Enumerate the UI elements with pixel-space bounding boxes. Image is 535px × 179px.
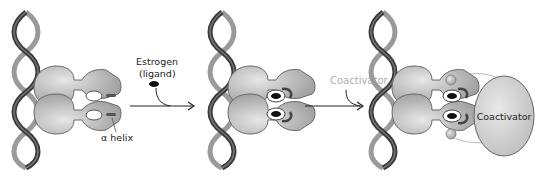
bound-estrogen-bottom [271,111,281,117]
stage-3: Coactivator [371,12,534,168]
bound-estrogen-top [271,93,281,99]
stage-1: α helix [14,12,133,168]
coactivator-contact-top [446,75,456,85]
estrogen-ligand-icon [149,81,159,87]
alpha-helix-bottom [106,113,116,116]
arrow-coactivator: Coactivator [305,75,389,110]
receptor-monomer-bottom [392,94,479,134]
empty-ligand-pocket-bottom [86,110,102,120]
bound-estrogen-bottom [447,113,457,119]
receptor-dimer [34,66,121,134]
stage-2 [210,12,315,168]
estrogen-label-line2: (ligand) [139,68,176,79]
dna-helix-icon [371,12,395,168]
coactivator-arrow-label: Coactivator [330,75,389,86]
empty-ligand-pocket-top [86,91,102,101]
estrogen-label-line1: Estrogen [136,56,178,67]
arrow-estrogen: Estrogen (ligand) [130,56,194,110]
coactivator-contact-bottom [446,129,456,139]
coactivator-entry-curve [346,90,360,106]
alpha-helix-label: α helix [101,132,133,143]
coactivator-label: Coactivator [477,111,532,122]
estrogen-entry-curve [156,88,170,106]
bound-estrogen-top [447,93,457,99]
alpha-helix-top [106,94,116,97]
estrogen-receptor-diagram: α helix Estrogen (ligand) Coactivator [0,0,535,179]
